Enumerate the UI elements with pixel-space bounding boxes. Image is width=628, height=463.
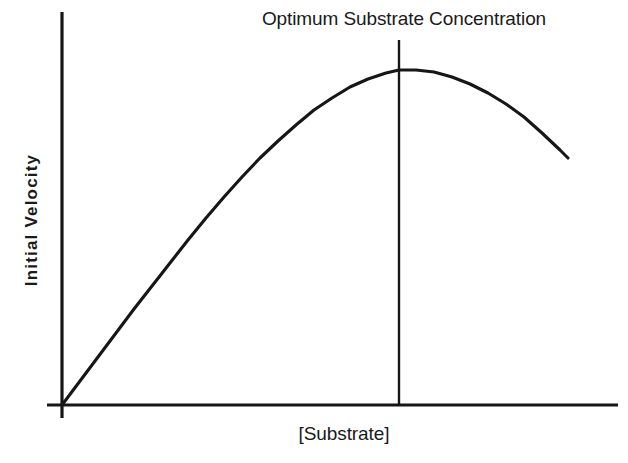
chart-figure: Optimum Substrate Concentration Initial … <box>0 0 628 463</box>
x-axis-label: [Substrate] <box>0 423 628 445</box>
chart-title: Optimum Substrate Concentration <box>0 8 628 30</box>
chart-plot-area <box>0 0 628 463</box>
y-axis-label: Initial Velocity <box>22 120 42 320</box>
chart-background <box>0 0 628 463</box>
